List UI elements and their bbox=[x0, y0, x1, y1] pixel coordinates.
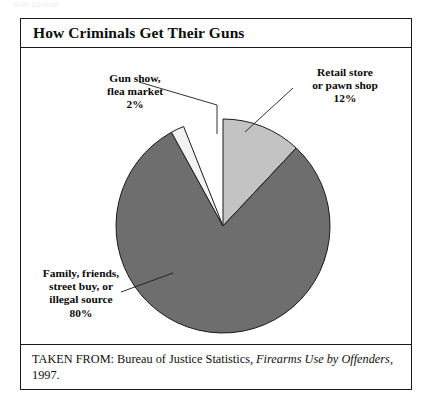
pie-chart: Gun show, flea market 2% Retail store or… bbox=[21, 48, 411, 344]
source-prefix: TAKEN FROM: Bureau of Justice Statistics… bbox=[32, 352, 256, 366]
pie-slices bbox=[116, 119, 330, 333]
source-title-italic: Firearms Use by Offenders bbox=[256, 352, 390, 366]
source-citation: TAKEN FROM: Bureau of Justice Statistics… bbox=[32, 352, 401, 383]
leader-line-retail bbox=[245, 88, 293, 132]
scan-page-header: Gun Control bbox=[14, 1, 58, 8]
figure-frame: How Criminals Get Their Guns Gun show, f… bbox=[20, 18, 412, 390]
callout-retail-store-pawn-shop: Retail store or pawn shop 12% bbox=[293, 66, 397, 106]
callout-gun-show-flea-market: Gun show, flea market 2% bbox=[83, 72, 187, 112]
figure-title: How Criminals Get Their Guns bbox=[33, 24, 245, 42]
callout-family-friends-street-buy: Family, friends, street buy, or illegal … bbox=[23, 267, 139, 320]
source-divider bbox=[21, 344, 411, 345]
